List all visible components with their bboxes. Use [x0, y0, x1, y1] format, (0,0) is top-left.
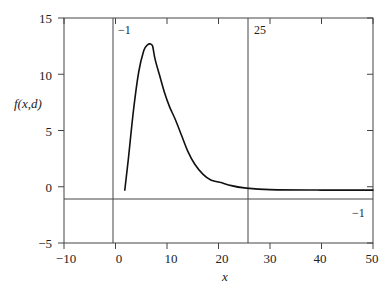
x-tick-label: 30	[264, 251, 277, 266]
axis-ticks	[58, 18, 373, 249]
y-tick-label: −5	[38, 236, 52, 251]
x-tick-label: 10	[165, 251, 178, 266]
x-tick-label: 20	[216, 251, 229, 266]
x-axis-label: x	[221, 269, 228, 284]
x-tick-label: 50	[366, 251, 379, 266]
y-tick-label: 15	[39, 11, 52, 26]
hline-label: −1	[352, 206, 365, 220]
y-axis-label: f(x,d)	[14, 96, 42, 111]
vline-left-label: −1	[118, 23, 131, 37]
x-tick-label: 40	[314, 251, 327, 266]
x-tick-label: 0	[116, 251, 123, 266]
data-curve	[125, 44, 373, 190]
y-tick-label: 5	[46, 124, 53, 139]
chart: 15 10 5 0 −5 −10 0 10 20 30 40 50 x f(x,…	[0, 0, 392, 293]
y-tick-label: 10	[39, 68, 52, 83]
plot-frame	[64, 18, 373, 243]
y-tick-label: 0	[46, 180, 53, 195]
x-tick-labels: −10 0 10 20 30 40 50	[56, 251, 379, 266]
y-tick-labels: 15 10 5 0 −5	[38, 11, 52, 251]
x-tick-label: −10	[56, 251, 76, 266]
vline-right-label: 25	[254, 23, 266, 37]
